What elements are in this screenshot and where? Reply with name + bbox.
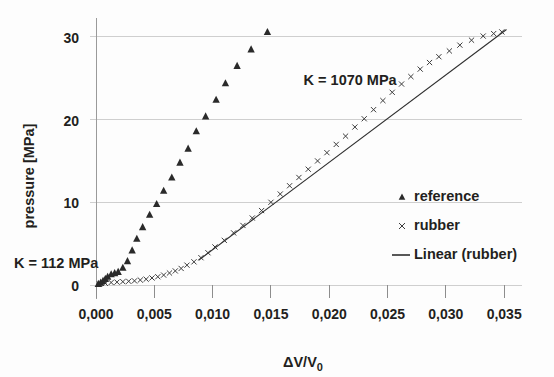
- x-tick-label-3: 0,015: [253, 306, 288, 322]
- x-tick-label-0: 0,000: [78, 306, 113, 322]
- y-tick-label-2: 20: [63, 113, 79, 129]
- y-tick-label-1: 10: [63, 195, 79, 211]
- legend-label: rubber: [414, 217, 460, 233]
- legend-label: reference: [414, 188, 479, 204]
- y-axis-title: pressure [MPa]: [21, 123, 37, 228]
- legend-label: Linear (rubber): [414, 246, 517, 262]
- pressure-volume-chart: 0,0000,0050,0100,0150,0200,0250,0300,035…: [0, 0, 554, 377]
- x-tick-label-1: 0,005: [137, 306, 172, 322]
- x-tick-label-2: 0,010: [195, 306, 230, 322]
- y-tick-label-3: 30: [63, 30, 79, 46]
- x-tick-label-4: 0,020: [312, 306, 347, 322]
- x-tick-label-7: 0,035: [487, 306, 522, 322]
- x-axis-title-subscript: 0: [317, 361, 323, 373]
- x-axis-title-main: ΔV/V: [283, 354, 317, 370]
- annotation-k-low: K = 112 MPa: [14, 255, 99, 271]
- chart-container: 0,0000,0050,0100,0150,0200,0250,0300,035…: [0, 0, 554, 377]
- x-tick-label-5: 0,025: [370, 306, 405, 322]
- y-tick-label-0: 0: [71, 278, 79, 294]
- annotation-k-high: K = 1070 MPa: [304, 72, 398, 88]
- x-tick-label-6: 0,030: [428, 306, 463, 322]
